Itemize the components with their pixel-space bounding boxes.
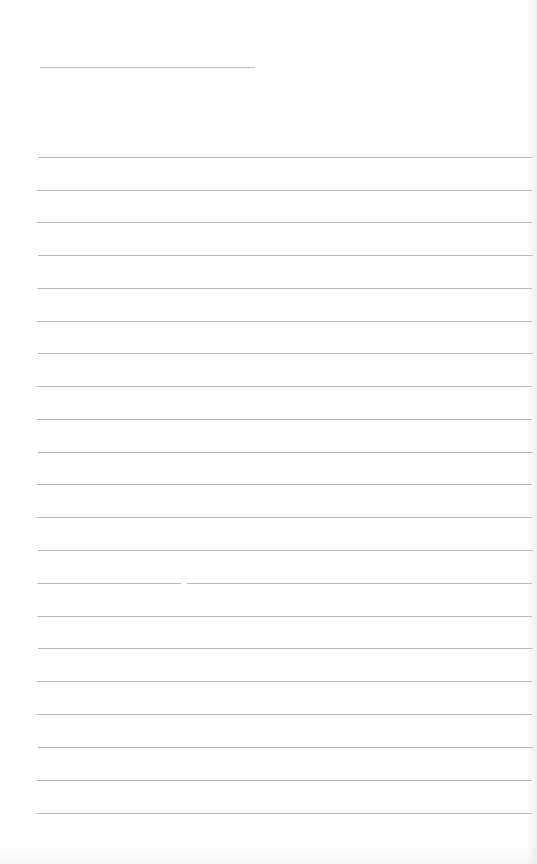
ruled-line	[38, 353, 533, 354]
ruled-line	[37, 222, 532, 223]
ruled-line	[37, 681, 532, 682]
line-gap	[181, 582, 187, 585]
ruled-line	[38, 747, 533, 748]
ruled-line	[37, 616, 532, 617]
ruled-line	[37, 321, 532, 322]
ruled-line	[38, 157, 533, 158]
ruled-line	[37, 780, 532, 781]
ruled-line	[38, 550, 533, 551]
ruled-line	[37, 386, 532, 387]
ruled-line	[37, 288, 532, 289]
ruled-line	[37, 714, 532, 715]
ruled-page	[0, 0, 537, 864]
page-bottom-shadow	[0, 846, 537, 864]
ruled-line	[38, 648, 533, 649]
ruled-line	[38, 255, 533, 256]
ruled-line	[37, 813, 532, 814]
ruled-line	[37, 419, 532, 420]
ruled-line	[37, 517, 532, 518]
ruled-line	[37, 190, 532, 191]
ruled-line	[37, 484, 532, 485]
ruled-line	[38, 452, 533, 453]
ruled-line	[37, 583, 532, 584]
page-edge-shadow	[527, 0, 537, 864]
header-line	[40, 67, 255, 68]
